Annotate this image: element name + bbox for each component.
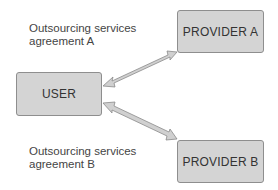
agreement-a-line1: Outsourcing services (29, 22, 136, 35)
agreement-b-line2: agreement B (29, 158, 136, 171)
provider-a-label: PROVIDER A (183, 25, 258, 39)
agreement-b-line1: Outsourcing services (29, 145, 136, 158)
agreement-b-label: Outsourcing services agreement B (29, 145, 136, 171)
user-label: USER (42, 87, 76, 101)
arrow-user-provider-b (103, 102, 177, 140)
provider-a-node: PROVIDER A (177, 10, 264, 53)
agreement-a-label: Outsourcing services agreement A (29, 22, 136, 48)
outsourcing-diagram: Outsourcing services agreement A Outsour… (0, 0, 278, 190)
arrow-user-provider-a (103, 51, 177, 87)
agreement-a-line2: agreement A (29, 35, 136, 48)
user-node: USER (16, 72, 102, 116)
provider-b-label: PROVIDER B (182, 155, 258, 169)
provider-b-node: PROVIDER B (177, 140, 264, 183)
